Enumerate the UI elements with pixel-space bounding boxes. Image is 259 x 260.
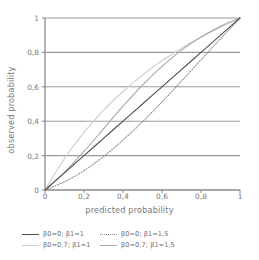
plot-area <box>0 0 259 260</box>
x-tick-label: 0,8 <box>195 192 207 201</box>
x-axis-label: predicted probability <box>0 205 259 215</box>
legend-label: β0=0,7; β1=1,5 <box>121 241 175 249</box>
y-tick-label: 0,6 <box>19 82 39 91</box>
y-tick-label: 1 <box>19 14 39 23</box>
legend-label: β0=0; β1=1,5 <box>121 230 168 238</box>
legend-line-swatch <box>22 231 39 237</box>
y-tick-label: 0,4 <box>19 117 39 126</box>
x-tick-label: 0 <box>43 192 48 201</box>
legend-label: β0=0,7; β1=1 <box>43 241 90 249</box>
x-tick-label: 0,4 <box>117 192 129 201</box>
legend-item: β0=0; β1=1,5 <box>100 228 220 239</box>
chart-legend: β0=0; β1=1β0=0; β1=1,5β0=0,7; β1=1β0=0,7… <box>22 228 238 250</box>
y-tick-label: 0 <box>19 186 39 195</box>
legend-line-swatch <box>100 231 117 237</box>
calibration-chart-figure: predicted probability observed probabili… <box>0 0 259 260</box>
legend-label: β0=0; β1=1 <box>43 230 84 238</box>
legend-item: β0=0,7; β1=1,5 <box>100 239 220 250</box>
legend-item: β0=0; β1=1 <box>22 228 100 239</box>
chart-series-line <box>45 18 240 190</box>
x-tick-label: 0,6 <box>156 192 168 201</box>
y-tick-label: 0,8 <box>19 48 39 57</box>
legend-item: β0=0,7; β1=1 <box>22 239 100 250</box>
x-tick-label: 0,2 <box>78 192 90 201</box>
legend-line-swatch <box>22 242 39 248</box>
legend-row: β0=0; β1=1β0=0; β1=1,5 <box>22 228 238 239</box>
y-axis-label: observed probability <box>6 45 16 175</box>
x-tick-label: 1 <box>238 192 243 201</box>
legend-row: β0=0,7; β1=1β0=0,7; β1=1,5 <box>22 239 238 250</box>
y-tick-label: 0,2 <box>19 151 39 160</box>
legend-line-swatch <box>100 242 117 248</box>
